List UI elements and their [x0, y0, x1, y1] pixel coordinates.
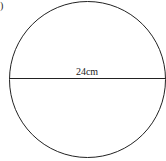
- diameter-label: 24cm: [76, 66, 98, 77]
- circle-diagram: ) 24cm: [0, 0, 166, 161]
- figure-part-label: ): [0, 0, 3, 12]
- circle-outline: [10, 2, 166, 158]
